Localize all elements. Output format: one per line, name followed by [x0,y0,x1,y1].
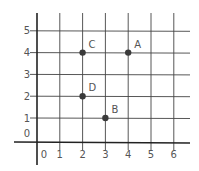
grid-lines [30,13,190,150]
point-C [79,49,85,55]
x-tick-label: 1 [57,149,63,160]
y-tick-label: 1 [24,113,30,124]
grid-line-y-1 [30,118,190,119]
point-B [102,115,108,121]
y-tick-label: 0 [24,128,30,139]
point-label-A: A [134,39,141,50]
grid-line-y-2 [30,96,190,97]
x-tick-label: 5 [148,149,154,160]
point-D [79,93,85,99]
coordinate-grid: 0123456012345 ABCD [0,0,199,171]
y-tick-label: 3 [24,69,30,80]
point-label-D: D [89,82,97,93]
axes [14,13,190,165]
grid-line-y-3 [30,74,190,75]
x-axis [14,142,190,143]
data-points: ABCD [79,39,141,122]
y-tick-label: 5 [24,25,30,36]
x-tick-label: 0 [41,149,47,160]
grid-line-y-4 [30,53,190,54]
x-tick-label: 4 [125,149,131,160]
y-tick-label: 4 [24,47,30,58]
grid-line-y-5 [30,31,190,32]
point-A [125,49,131,55]
point-label-C: C [89,39,96,50]
tick-labels: 0123456012345 [24,25,177,160]
x-tick-label: 3 [102,149,108,160]
point-label-B: B [111,104,118,115]
y-tick-label: 2 [24,91,30,102]
x-tick-label: 6 [171,149,177,160]
x-tick-label: 2 [79,149,85,160]
